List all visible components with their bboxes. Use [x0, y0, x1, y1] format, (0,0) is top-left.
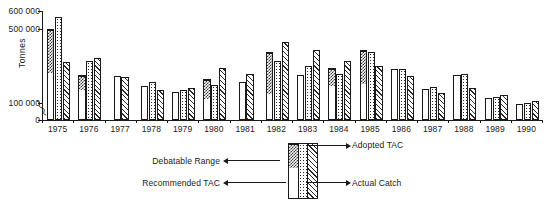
- bar-group: [480, 11, 511, 120]
- bar-recommended-tac: [328, 68, 335, 120]
- bar-adopted-tac: [180, 90, 187, 120]
- bar-recommended-tac: [485, 98, 492, 120]
- plot-area: [42, 11, 542, 120]
- x-tick-label: 1985: [355, 124, 386, 134]
- bar-segment-recommended-tac: [204, 99, 209, 119]
- bar-group: [42, 11, 73, 120]
- bar-actual-catch: [219, 68, 226, 120]
- bar-recommended-tac: [114, 76, 121, 120]
- bar-adopted-tac: [461, 74, 468, 120]
- x-tick-mark: [73, 120, 74, 123]
- y-tick-mark: [38, 120, 42, 121]
- bar-actual-catch: [469, 88, 476, 120]
- bar-segment-recommended-tac: [79, 90, 84, 119]
- x-tick-mark: [42, 120, 43, 123]
- bar-segment-debatable-range: [361, 51, 366, 84]
- x-tick-label: 1978: [136, 124, 167, 134]
- bar-group: [73, 11, 104, 120]
- bar-actual-catch: [344, 61, 351, 120]
- x-tick-label: 1979: [167, 124, 198, 134]
- bar-group: [230, 11, 261, 120]
- x-tick-label: 1990: [511, 124, 542, 134]
- bar-recommended-tac: [78, 75, 85, 120]
- bar-adopted-tac: [149, 82, 156, 120]
- x-tick-mark: [105, 120, 106, 123]
- bar-recommended-tac: [141, 86, 148, 120]
- bar-recommended-tac: [203, 79, 210, 120]
- bar-recommended-tac: [297, 75, 304, 120]
- x-tick-mark: [261, 120, 262, 123]
- bar-group: [292, 11, 323, 120]
- bar-actual-catch: [63, 62, 70, 120]
- bar-group: [105, 11, 136, 120]
- bar-group: [136, 11, 167, 120]
- legend-arrow-recommended-tac: [228, 182, 286, 183]
- legend-label-actual-catch: Actual Catch: [352, 178, 401, 188]
- bar-adopted-tac: [399, 69, 406, 120]
- x-tick-label: 1980: [198, 124, 229, 134]
- bar-actual-catch: [121, 77, 128, 120]
- legend-arrow-adopted-tac: [306, 145, 346, 146]
- x-tick-label: 1987: [417, 124, 448, 134]
- bar-recommended-tac: [453, 75, 460, 120]
- bar-segment-debatable-range: [48, 30, 53, 72]
- x-tick-mark: [167, 120, 168, 123]
- bar-actual-catch: [313, 50, 320, 120]
- bar-adopted-tac: [86, 61, 93, 120]
- y-tick-mark: [38, 103, 42, 104]
- bar-actual-catch: [375, 66, 382, 120]
- bar-actual-catch: [246, 74, 253, 120]
- x-tick-label: 1989: [480, 124, 511, 134]
- x-tick-mark: [542, 120, 543, 123]
- bar-group: [511, 11, 542, 120]
- bar-adopted-tac: [274, 61, 281, 120]
- bar-actual-catch: [188, 88, 195, 120]
- bar-actual-catch: [407, 76, 414, 120]
- y-tick-label: 600 000: [9, 6, 40, 16]
- legend-swatch-actual-catch: [307, 143, 318, 199]
- x-tick-label: 1986: [386, 124, 417, 134]
- x-tick-label: 1983: [292, 124, 323, 134]
- bar-group: [261, 11, 292, 120]
- bar-group: [417, 11, 448, 120]
- bar-group: [167, 11, 198, 120]
- x-tick-mark: [230, 120, 231, 123]
- bar-adopted-tac: [55, 17, 62, 120]
- x-tick-mark: [386, 120, 387, 123]
- bar-group: [355, 11, 386, 120]
- x-tick-mark: [417, 120, 418, 123]
- bar-segment-debatable-range: [329, 69, 334, 86]
- bar-adopted-tac: [336, 74, 343, 120]
- bar-actual-catch: [438, 93, 445, 120]
- x-tick-mark: [198, 120, 199, 123]
- x-tick-label: 1984: [323, 124, 354, 134]
- bar-recommended-tac: [516, 104, 523, 120]
- legend-label-adopted-tac: Adopted TAC: [352, 140, 403, 150]
- y-tick-label: 500 000: [9, 24, 40, 34]
- bar-recommended-tac: [172, 92, 179, 120]
- legend-swatch-debatable-range: [289, 144, 298, 169]
- bar-actual-catch: [94, 58, 101, 120]
- x-tick-mark: [480, 120, 481, 123]
- bar-segment-recommended-tac: [361, 84, 366, 119]
- legend-label-recommended-tac: Recommended TAC: [80, 178, 220, 188]
- bar-segment-debatable-range: [267, 53, 272, 93]
- x-tick-mark: [448, 120, 449, 123]
- x-tick-label: 1976: [73, 124, 104, 134]
- bar-segment-debatable-range: [204, 80, 209, 99]
- bar-actual-catch: [500, 95, 507, 120]
- bar-adopted-tac: [368, 52, 375, 120]
- bar-group: [198, 11, 229, 120]
- y-axis-ticks: 0100 000500 000600 000: [0, 0, 40, 125]
- bar-adopted-tac: [211, 85, 218, 120]
- x-tick-mark: [136, 120, 137, 123]
- chart-legend: Debatable Range Recommended TAC Adopted …: [0, 140, 552, 215]
- bar-group: [386, 11, 417, 120]
- bar-group: [448, 11, 479, 120]
- x-tick-label: 1975: [42, 124, 73, 134]
- x-tick-label: 1977: [105, 124, 136, 134]
- bar-adopted-tac: [524, 103, 531, 120]
- x-tick-mark: [355, 120, 356, 123]
- bar-adopted-tac: [493, 97, 500, 120]
- bar-segment-debatable-range: [79, 76, 84, 90]
